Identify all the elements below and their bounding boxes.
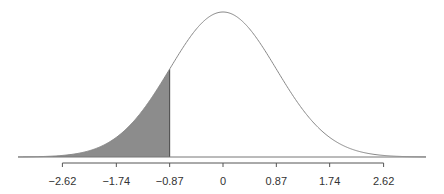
x-tick-label: −1.74 <box>102 175 130 187</box>
shaded-lower-tail <box>18 69 170 157</box>
x-tick-label: 0.87 <box>266 175 287 187</box>
x-axis: −2.62−1.74−0.8700.871.742.62 <box>48 163 394 187</box>
x-tick-label: −0.87 <box>156 175 184 187</box>
x-tick-label: −2.62 <box>48 175 76 187</box>
x-tick-label: 0 <box>220 175 226 187</box>
x-tick-label: 1.74 <box>319 175 340 187</box>
normal-density-curve <box>18 12 426 157</box>
x-tick-label: 2.62 <box>373 175 394 187</box>
normal-curve-chart: −2.62−1.74−0.8700.871.742.62 <box>0 0 444 194</box>
